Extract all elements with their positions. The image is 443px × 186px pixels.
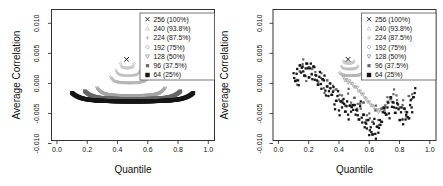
plot-right-panel: 0.00.20.40.60.81.0-0.010-0.0050.0000.005… bbox=[219, 10, 436, 176]
legend-entry-label: 240 (93.8%) bbox=[154, 25, 191, 33]
x-tick-label: 1.0 bbox=[425, 146, 435, 153]
x-tick-label: 0.0 bbox=[274, 146, 284, 153]
legend-entry-label: 240 (93.8%) bbox=[375, 25, 412, 33]
y-axis-label: Average Correlation bbox=[11, 31, 22, 120]
x-tick-label: 0.0 bbox=[52, 146, 62, 153]
x-tick-label: 0.8 bbox=[395, 146, 405, 153]
y-tick-label: -0.010 bbox=[256, 133, 263, 153]
y-tick-label: 0.010 bbox=[256, 14, 263, 32]
x-tick-label: 0.2 bbox=[82, 146, 92, 153]
legend-entry-label: 224 (87.5%) bbox=[154, 34, 191, 42]
legend-entry-label: 224 (87.5%) bbox=[375, 34, 412, 42]
x-tick-label: 1.0 bbox=[203, 146, 213, 153]
x-axis-label: Quantile bbox=[336, 164, 374, 175]
series-224-87-5- bbox=[340, 64, 360, 70]
legend-entry-label: 256 (100%) bbox=[154, 16, 189, 24]
legend-entry-label: 192 (75%) bbox=[154, 44, 185, 52]
x-tick-label: 0.8 bbox=[173, 146, 183, 153]
plot-left-panel: 0.00.20.40.60.81.0-0.010-0.0050.0000.005… bbox=[11, 10, 215, 176]
x-axis-label: Quantile bbox=[114, 164, 152, 175]
legend-entry-label: 96 (37.5%) bbox=[375, 62, 408, 70]
y-tick-label: 0.005 bbox=[33, 45, 40, 63]
y-tick-label: 0.000 bbox=[33, 75, 40, 93]
series-256-100- bbox=[124, 57, 129, 62]
series-128-50- bbox=[95, 87, 166, 98]
x-tick-label: 0.6 bbox=[364, 146, 374, 153]
series-240-93-8- bbox=[119, 62, 135, 69]
series-224-87-5- bbox=[114, 69, 141, 77]
legend-entry-label: 96 (37.5%) bbox=[154, 62, 187, 70]
legend-entry-label: 64 (25%) bbox=[154, 71, 182, 79]
y-tick-label: 0.000 bbox=[256, 75, 263, 93]
chart-canvas: 0.00.20.40.60.81.0-0.010-0.0050.0000.005… bbox=[0, 0, 443, 186]
legend-entry-label: 128 (50%) bbox=[375, 53, 406, 61]
x-tick-label: 0.6 bbox=[143, 146, 153, 153]
legend-entry-label: 192 (75%) bbox=[375, 44, 406, 52]
x-tick-label: 0.4 bbox=[334, 146, 344, 153]
y-tick-label: -0.005 bbox=[256, 103, 263, 123]
legend-entry-label: 64 (25%) bbox=[375, 71, 403, 79]
x-tick-label: 0.4 bbox=[113, 146, 123, 153]
y-axis-label: Average Correlation bbox=[219, 31, 230, 120]
y-tick-label: 0.005 bbox=[256, 45, 263, 63]
legend-entry-label: 256 (100%) bbox=[375, 16, 410, 24]
legend: 256 (100%)240 (93.8%)224 (87.5%)192 (75%… bbox=[362, 13, 437, 80]
series-256-100- bbox=[346, 57, 351, 62]
dual-scatter-figure: 0.00.20.40.60.81.0-0.010-0.0050.0000.005… bbox=[0, 0, 443, 186]
y-tick-label: -0.005 bbox=[33, 103, 40, 123]
y-tick-label: -0.010 bbox=[33, 133, 40, 153]
y-tick-label: 0.010 bbox=[33, 14, 40, 32]
x-tick-label: 0.2 bbox=[304, 146, 314, 153]
legend-entry-label: 128 (50%) bbox=[154, 53, 185, 61]
legend: 256 (100%)240 (93.8%)224 (87.5%)192 (75%… bbox=[140, 13, 215, 80]
